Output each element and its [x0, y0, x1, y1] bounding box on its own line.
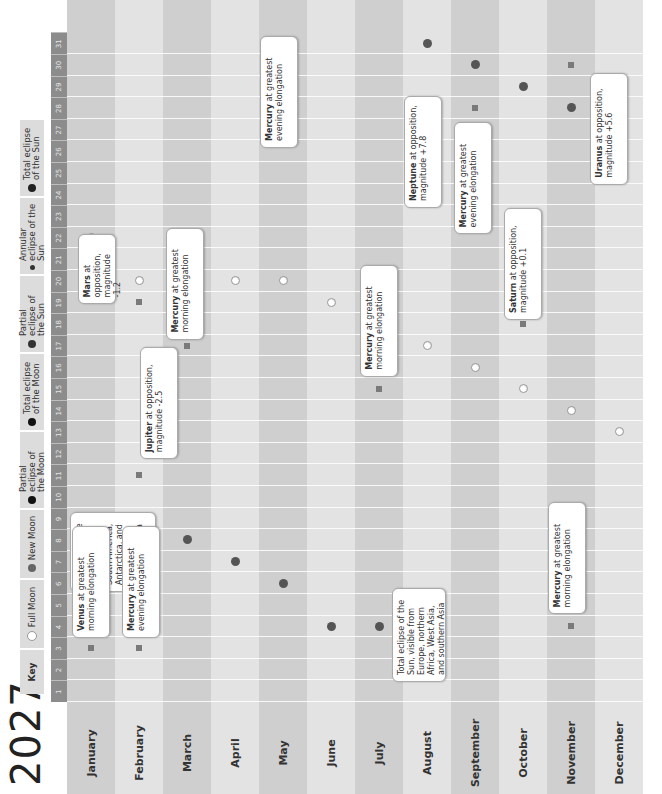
- event-subject: Mercury: [171, 296, 180, 333]
- day-header: 30: [51, 54, 67, 76]
- event-annotation: Venus at greatest morning elongation: [72, 526, 110, 638]
- event-subject: Mercury: [553, 570, 562, 607]
- day-gridline: [67, 679, 643, 680]
- day-header: 17: [51, 335, 67, 357]
- day-header: 13: [51, 421, 67, 443]
- day-header: 8: [51, 529, 67, 551]
- month-label: September: [451, 712, 499, 794]
- event-annotation: Neptune at opposition, magnitude +7.8: [404, 96, 442, 208]
- annular-solar-icon: [30, 265, 35, 270]
- month-label: January: [67, 712, 115, 794]
- day-gridline: [67, 247, 643, 248]
- event-annotation: Mercury at greatest evening elongation: [260, 36, 298, 148]
- key-item-label: Total eclipse of the Moon: [23, 358, 41, 414]
- day-header: 10: [51, 486, 67, 508]
- key-item-total-solar: Total eclipse of the Sun: [20, 118, 44, 196]
- day-header: 25: [51, 162, 67, 184]
- event-marker-icon: [136, 299, 142, 305]
- month-row-november: November: [547, 0, 595, 794]
- event-annotation: Mercury at greatest morning elongation: [166, 228, 204, 340]
- key-item-label: Partial eclipse of the Moon: [19, 436, 46, 492]
- new-moon-icon: [231, 557, 240, 566]
- key-item-annular-solar: Annular eclipse of the Sun: [20, 196, 44, 274]
- day-gridline: [67, 226, 643, 227]
- full-moon-icon: [567, 406, 576, 415]
- month-row-january: January: [67, 0, 115, 794]
- day-header: 15: [51, 378, 67, 400]
- new-moon-icon: [375, 622, 384, 631]
- day-header: 18: [51, 313, 67, 335]
- new-moon-icon: [423, 39, 432, 48]
- event-subject: Mars: [83, 275, 92, 297]
- day-gridline: [67, 53, 643, 54]
- month-row-april: April: [211, 0, 259, 794]
- key-item-total-lunar: Total eclipse of the Moon: [20, 352, 44, 430]
- day-header: 5: [51, 594, 67, 616]
- chart-title-year: 2027: [2, 680, 50, 786]
- day-gridline: [67, 96, 643, 97]
- event-subject: Mercury: [459, 190, 468, 227]
- event-marker-icon: [520, 321, 526, 327]
- new-moon-icon: [471, 60, 480, 69]
- event-subject: Mercury: [365, 333, 374, 370]
- full-moon-icon: [327, 298, 336, 307]
- event-subject: Venus: [77, 604, 86, 631]
- event-annotation: Mercury at greatest morning elongation: [548, 502, 586, 614]
- day-header: 21: [51, 248, 67, 270]
- day-header: 29: [51, 76, 67, 98]
- day-header: 2: [51, 659, 67, 681]
- key-item-label: Partial eclipse of the Sun: [19, 280, 46, 336]
- day-header: 3: [51, 637, 67, 659]
- month-label: May: [259, 712, 307, 794]
- day-header: 31: [51, 32, 67, 54]
- key-item-full: Full Moon: [20, 578, 44, 648]
- partial-lunar-icon: [28, 496, 36, 504]
- new-moon-icon: [279, 579, 288, 588]
- day-header: 19: [51, 292, 67, 314]
- event-annotation: Mercury at greatest evening elongation: [454, 122, 492, 234]
- day-gridline: [67, 463, 643, 464]
- month-row-june: June: [307, 0, 355, 794]
- day-header: 14: [51, 400, 67, 422]
- day-gridline: [67, 291, 643, 292]
- total-solar-icon: [28, 184, 36, 192]
- day-gridline: [67, 204, 643, 205]
- key-item-label: Total eclipse of the Sun: [23, 124, 41, 180]
- full-moon-icon: [135, 276, 144, 285]
- event-marker-icon: [568, 623, 574, 629]
- month-label: August: [403, 712, 451, 794]
- full-moon-icon: [231, 276, 240, 285]
- key-item-label: Annular eclipse of the Sun: [19, 202, 46, 261]
- month-label: February: [115, 712, 163, 794]
- month-label: March: [163, 712, 211, 794]
- month-label: December: [595, 712, 643, 794]
- full-moon-icon: [519, 384, 528, 393]
- event-annotation: Mars at opposition, magnitude -1.2: [78, 234, 116, 304]
- event-marker-icon: [472, 105, 478, 111]
- event-annotation: Mercury at greatest morning elongation: [360, 265, 398, 377]
- day-header: 23: [51, 205, 67, 227]
- day-gridline: [67, 312, 643, 313]
- day-gridline: [67, 269, 643, 270]
- day-gridline: [67, 118, 643, 119]
- day-gridline: [67, 75, 643, 76]
- day-header: 27: [51, 119, 67, 141]
- full-icon: [27, 631, 37, 641]
- calendar-chart: JanuaryFebruaryMarchAprilMayJuneJulyAugu…: [0, 0, 662, 794]
- day-header: 22: [51, 227, 67, 249]
- day-header: 1: [51, 680, 67, 702]
- full-moon-icon: [423, 341, 432, 350]
- eclipse-annotation: Total eclipse of the Sun, visible from E…: [392, 588, 446, 682]
- new-moon-icon: [519, 82, 528, 91]
- event-marker-icon: [568, 62, 574, 68]
- key-item-label: New Moon: [28, 516, 37, 560]
- day-gridline: [67, 701, 643, 702]
- month-label: October: [499, 712, 547, 794]
- key-item-partial-lunar: Partial eclipse of the Moon: [20, 430, 44, 508]
- day-header: 20: [51, 270, 67, 292]
- day-header: 12: [51, 443, 67, 465]
- month-label: April: [211, 712, 259, 794]
- partial-solar-icon: [28, 340, 36, 348]
- day-header: 7: [51, 551, 67, 573]
- month-label: July: [355, 712, 403, 794]
